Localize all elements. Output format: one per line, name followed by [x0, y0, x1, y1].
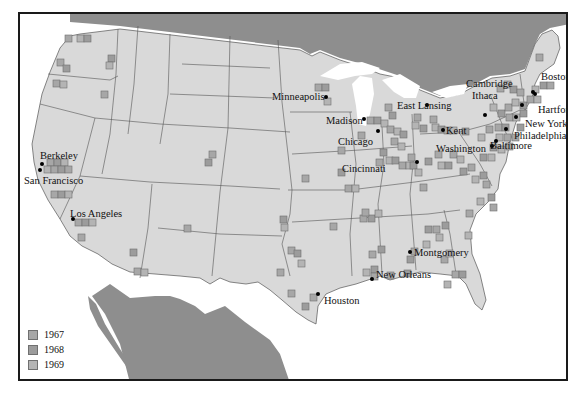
us-campus-protests-map: Berkeley San Francisco Los Angeles Minne…	[20, 14, 568, 381]
map-frame: Berkeley San Francisco Los Angeles Minne…	[18, 12, 568, 381]
legend-swatch-icon	[28, 360, 38, 370]
legend-swatch-icon	[28, 345, 38, 355]
city-label-montgomery: Montgomery	[414, 247, 470, 258]
city-label-cincinnati: Cincinnati	[342, 163, 386, 174]
city-label-boston: Boston	[541, 71, 568, 82]
city-label-madison: Madison	[326, 115, 364, 126]
legend-label: 1968	[44, 344, 64, 355]
city-label-baltimore: Baltimore	[490, 140, 532, 151]
city-label-hartford: Hartford	[538, 104, 568, 115]
city-label-chicago: Chicago	[338, 136, 373, 147]
legend-label: 1967	[44, 329, 64, 340]
city-label-east-lansing: East Lansing	[397, 100, 452, 111]
legend-swatch-icon	[28, 330, 38, 340]
city-label-new-york: New York	[525, 118, 568, 129]
city-label-new-orleans: New Orleans	[376, 269, 431, 280]
city-label-berkeley: Berkeley	[40, 150, 79, 161]
city-label-kent: Kent	[446, 125, 466, 136]
city-label-cambridge: Cambridge	[466, 78, 513, 89]
city-label-washington: Washington	[436, 143, 487, 154]
city-label-minneapolis: Minneapolis	[272, 91, 325, 102]
legend-item-1969: 1969	[28, 357, 64, 372]
city-label-los-angeles: Los Angeles	[70, 208, 122, 219]
city-label-philadelphia: Philadelphia	[514, 130, 567, 141]
legend-item-1968: 1968	[28, 342, 64, 357]
legend-label: 1969	[44, 359, 64, 370]
mexico-region	[92, 284, 290, 381]
city-label-ithaca: Ithaca	[472, 90, 498, 101]
legend-item-1967: 1967	[28, 327, 64, 342]
city-label-houston: Houston	[324, 295, 360, 306]
city-label-san-francisco: San Francisco	[24, 175, 83, 186]
map-legend: 1967 1968 1969	[28, 327, 64, 372]
